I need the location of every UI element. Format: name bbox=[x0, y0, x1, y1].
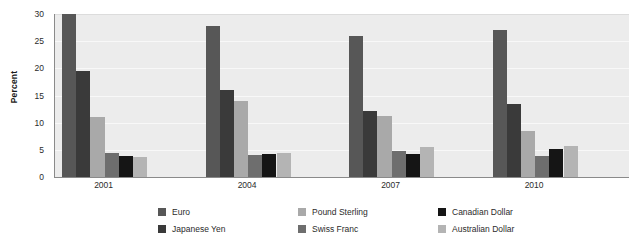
y-axis-tick-label: 25 bbox=[35, 36, 44, 46]
bar bbox=[377, 116, 391, 177]
bar bbox=[234, 101, 248, 177]
legend-swatch-icon bbox=[298, 208, 306, 216]
y-axis-tick-label: 5 bbox=[39, 145, 44, 155]
x-axis-tick-label: 2007 bbox=[381, 180, 400, 190]
bar bbox=[119, 156, 133, 177]
x-axis-tick-labels: 2001200420072010 bbox=[54, 180, 628, 194]
bar bbox=[206, 26, 220, 177]
legend-item: Australian Dollar bbox=[438, 220, 578, 237]
y-axis-tick-labels: 051015202530 bbox=[0, 14, 48, 177]
legend-item: Swiss Franc bbox=[298, 220, 438, 237]
bar-group bbox=[62, 14, 147, 177]
bar bbox=[277, 153, 291, 177]
bar bbox=[133, 157, 147, 177]
bar bbox=[363, 111, 377, 177]
x-axis-tick-label: 2004 bbox=[238, 180, 257, 190]
y-axis-tick-label: 30 bbox=[35, 9, 44, 19]
y-axis-tick-label: 0 bbox=[39, 172, 44, 182]
bar-group bbox=[206, 14, 291, 177]
x-axis-tick-label: 2001 bbox=[94, 180, 113, 190]
legend-item: Euro bbox=[158, 203, 298, 220]
legend-swatch-icon bbox=[158, 208, 166, 216]
bar bbox=[76, 71, 90, 177]
legend-swatch-icon bbox=[438, 225, 446, 233]
bar-group bbox=[493, 14, 578, 177]
legend-swatch-icon bbox=[438, 208, 446, 216]
legend-item-label: Canadian Dollar bbox=[452, 207, 513, 217]
x-axis-tick-label: 2010 bbox=[525, 180, 544, 190]
bar bbox=[62, 14, 76, 177]
bar bbox=[493, 30, 507, 177]
bar bbox=[406, 154, 420, 177]
legend-item-label: Euro bbox=[172, 207, 190, 217]
bar bbox=[564, 146, 578, 178]
legend-item-label: Pound Sterling bbox=[312, 207, 368, 217]
legend-item-label: Australian Dollar bbox=[452, 224, 514, 234]
bar bbox=[262, 154, 276, 177]
bar bbox=[535, 156, 549, 177]
legend-swatch-icon bbox=[298, 225, 306, 233]
bar-chart: Percent 051015202530 2001200420072010 Eu… bbox=[0, 0, 636, 248]
bar bbox=[248, 155, 262, 177]
y-axis-tick-label: 15 bbox=[35, 91, 44, 101]
chart-legend: EuroPound SterlingCanadian DollarJapanes… bbox=[158, 203, 578, 237]
bar bbox=[521, 131, 535, 177]
bar bbox=[90, 117, 104, 177]
legend-item: Canadian Dollar bbox=[438, 203, 578, 220]
plot-area bbox=[54, 14, 629, 178]
bar bbox=[392, 151, 406, 177]
legend-item-label: Japanese Yen bbox=[172, 224, 225, 234]
legend-swatch-icon bbox=[158, 225, 166, 233]
bar bbox=[420, 147, 434, 177]
bar-groups bbox=[55, 14, 629, 177]
bar-group bbox=[349, 14, 434, 177]
bar bbox=[507, 104, 521, 177]
y-axis-tick-label: 20 bbox=[35, 63, 44, 73]
bar bbox=[105, 153, 119, 177]
legend-item: Pound Sterling bbox=[298, 203, 438, 220]
bar bbox=[349, 36, 363, 177]
legend-item-label: Swiss Franc bbox=[312, 224, 358, 234]
bar bbox=[549, 149, 563, 177]
bar bbox=[220, 90, 234, 177]
y-axis-tick-label: 10 bbox=[35, 118, 44, 128]
legend-item: Japanese Yen bbox=[158, 220, 298, 237]
